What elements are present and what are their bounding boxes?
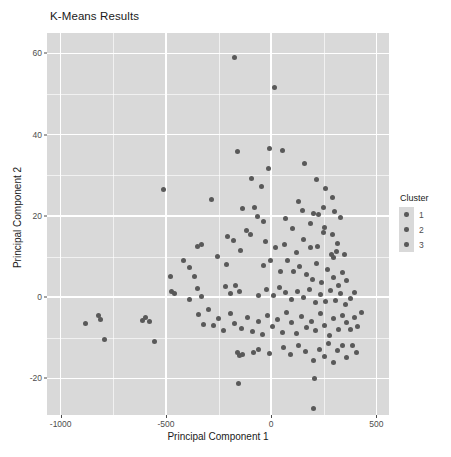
legend-key-dot-icon — [399, 222, 414, 237]
data-point — [280, 330, 285, 335]
data-point — [322, 323, 327, 328]
data-point — [261, 219, 266, 224]
gridline-major-horizontal — [47, 296, 389, 298]
data-point — [215, 254, 220, 259]
data-point — [294, 250, 299, 255]
data-point — [340, 343, 345, 348]
data-point — [289, 320, 294, 325]
data-point — [278, 269, 283, 274]
data-point — [348, 327, 353, 332]
data-point — [245, 315, 250, 320]
y-axis-tick-label: 20 — [33, 211, 42, 221]
data-point — [232, 321, 237, 326]
data-point — [83, 321, 88, 326]
data-point — [235, 149, 240, 154]
data-point — [314, 177, 319, 182]
legend-items: 123 — [399, 207, 451, 252]
data-point — [161, 187, 166, 192]
data-point — [336, 327, 341, 332]
y-axis-tick-label: 60 — [33, 48, 42, 58]
data-point — [323, 186, 328, 191]
data-point — [264, 287, 269, 292]
gridline-major-vertical — [270, 33, 272, 415]
x-axis-tick-label: -1000 — [50, 419, 72, 429]
data-point — [335, 348, 340, 353]
data-point — [301, 295, 306, 300]
data-point — [312, 376, 317, 381]
data-point — [343, 302, 348, 307]
data-point — [313, 328, 318, 333]
data-point — [221, 328, 226, 333]
data-point — [172, 291, 177, 296]
data-point — [327, 333, 332, 338]
data-point — [255, 214, 260, 219]
legend-item-2[interactable]: 2 — [399, 222, 451, 237]
y-axis-tick-mark — [44, 215, 47, 216]
data-point — [340, 313, 345, 318]
legend-item-1[interactable]: 1 — [399, 207, 451, 222]
data-point — [267, 351, 272, 356]
data-point — [261, 263, 266, 268]
y-axis-tick-mark — [44, 378, 47, 379]
data-point — [236, 381, 241, 386]
data-point — [211, 323, 216, 328]
data-point — [352, 315, 357, 320]
data-point — [280, 148, 285, 153]
gridline-minor-vertical — [219, 33, 220, 415]
data-point — [325, 267, 330, 272]
data-point — [331, 360, 336, 365]
data-point — [311, 358, 316, 363]
data-point — [288, 352, 293, 357]
data-point — [272, 85, 277, 90]
data-point — [282, 242, 287, 247]
data-point — [233, 283, 238, 288]
data-point — [313, 300, 318, 305]
data-point — [228, 311, 233, 316]
data-point — [294, 331, 299, 336]
gridline-minor-horizontal — [47, 94, 389, 95]
data-point — [152, 339, 157, 344]
data-point — [206, 307, 211, 312]
data-point — [338, 215, 343, 220]
data-point — [301, 237, 306, 242]
data-point — [195, 286, 200, 291]
gridline-major-horizontal — [47, 378, 389, 380]
data-point — [297, 264, 302, 269]
data-point — [333, 298, 338, 303]
gridline-major-vertical — [376, 33, 378, 415]
data-point — [340, 270, 345, 275]
data-point — [199, 294, 204, 299]
legend-item-3[interactable]: 3 — [399, 237, 451, 252]
y-axis-label: Principal Component 2 — [12, 133, 23, 303]
x-axis-tick-mark — [61, 415, 62, 418]
data-point — [317, 347, 322, 352]
gridline-minor-horizontal — [47, 338, 389, 339]
data-point — [323, 299, 328, 304]
data-point — [331, 275, 336, 280]
y-axis-tick-mark — [44, 134, 47, 135]
data-point — [359, 310, 364, 315]
data-point — [291, 269, 296, 274]
data-point — [232, 55, 237, 60]
data-point — [223, 284, 228, 289]
data-point — [256, 293, 261, 298]
data-point — [350, 343, 355, 348]
x-axis-tick-label: 500 — [369, 419, 383, 429]
data-point — [336, 283, 341, 288]
gridline-major-vertical — [165, 33, 167, 415]
data-point — [304, 325, 309, 330]
data-point — [344, 355, 349, 360]
data-point — [295, 289, 300, 294]
y-axis-tick-label: 0 — [37, 292, 42, 302]
x-axis-tick-label: 0 — [269, 419, 274, 429]
data-point — [307, 287, 312, 292]
data-point — [311, 406, 316, 411]
data-point — [273, 245, 278, 250]
data-point — [308, 221, 313, 226]
data-point — [308, 245, 313, 250]
data-point — [240, 206, 245, 211]
data-point — [238, 248, 243, 253]
data-point — [332, 209, 337, 214]
data-point — [270, 324, 275, 329]
data-point — [248, 232, 253, 237]
